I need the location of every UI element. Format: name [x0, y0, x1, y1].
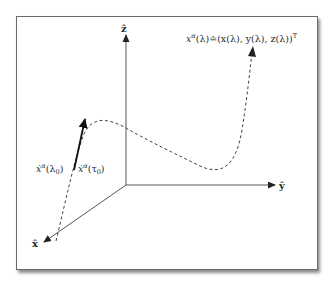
z-axis-label: ẑ: [121, 23, 127, 34]
curve-end-arrowhead: [248, 46, 256, 57]
curve-label-transpose: T: [293, 32, 298, 40]
tangent-label-tau0: ẋα(τ0): [78, 162, 105, 176]
x-axis-label: x̂: [32, 238, 39, 249]
curve-label: xα(λ)≐(x(λ), y(λ), z(λ))T: [186, 32, 298, 44]
curve-label-body: (λ)≐(x(λ), y(λ), z(λ)): [196, 33, 293, 44]
tangent-label-lambda0: ẋα(λ0): [36, 162, 63, 176]
diagram-canvas: ẑ ŷ x̂ xα(λ)≐(x(λ), y(λ), z(λ))T ẋα(λ0) …: [0, 0, 336, 289]
x-axis: [44, 185, 126, 242]
y-axis-label: ŷ: [278, 180, 286, 191]
